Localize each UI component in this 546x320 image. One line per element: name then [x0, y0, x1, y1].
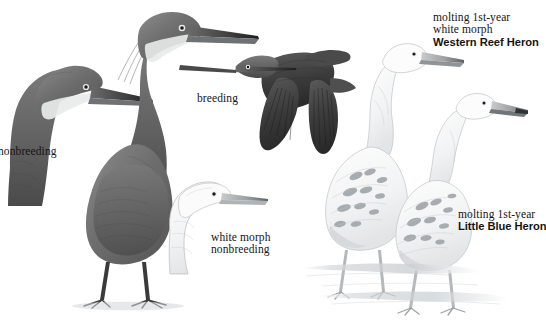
figure-molting-first-year-little-blue-heron: [396, 93, 528, 315]
label-breeding: breeding: [197, 92, 238, 104]
label-little-blue-heron-block: molting 1st-year Little Blue Heron: [458, 208, 546, 233]
label-molting-first-year-little-blue: molting 1st-year: [458, 208, 546, 220]
label-white-morph-reef: white morph: [433, 23, 539, 35]
label-species-western-reef-heron: Western Reef Heron: [433, 36, 539, 48]
figure-dark-morph-breeding-standing: [72, 12, 259, 310]
label-molting-first-year-reef: molting 1st-year: [433, 11, 539, 23]
label-white-morph: white morph: [211, 231, 271, 243]
label-white-morph-nonbreeding-block: white morph nonbreeding: [211, 231, 271, 256]
label-nonbreeding: nonbreeding: [0, 145, 57, 157]
label-species-little-blue-heron: Little Blue Heron: [458, 220, 546, 232]
label-western-reef-heron-block: molting 1st-year white morph Western Ree…: [433, 11, 539, 48]
figure-white-morph-nonbreeding-head: [169, 182, 268, 274]
ground-shading: [300, 264, 510, 304]
label-white-morph-nonbreeding: nonbreeding: [211, 243, 271, 255]
illustration-plate: nonbreeding breeding white morph nonbree…: [0, 0, 546, 320]
